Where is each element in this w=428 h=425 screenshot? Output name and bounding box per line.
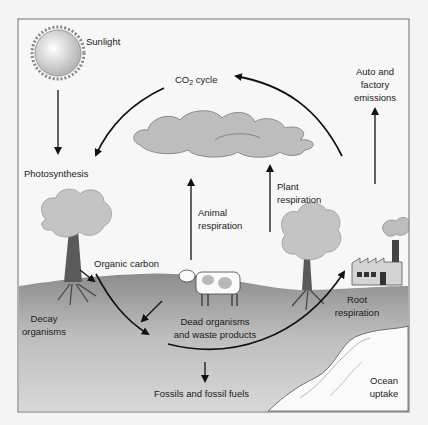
label-co2-cycle: CO2 cycle bbox=[175, 74, 217, 86]
label-plant-line2: respiration bbox=[277, 194, 321, 205]
carbon-cycle-diagram: Sunlight CO2 cycle Auto and factory emis… bbox=[0, 0, 428, 425]
label-decay-line2: organisms bbox=[22, 326, 66, 337]
label-animal-line2: respiration bbox=[198, 220, 242, 231]
label-animal-line1: Animal bbox=[198, 207, 227, 218]
label-auto-line2: factory bbox=[361, 79, 390, 90]
label-root-line1: Root bbox=[347, 294, 367, 305]
label-ocean-line1: Ocean bbox=[370, 375, 398, 386]
label-decay-line1: Decay bbox=[31, 313, 58, 324]
label-sunlight: Sunlight bbox=[86, 36, 121, 47]
label-photosynthesis: Photosynthesis bbox=[24, 168, 89, 179]
label-plant-line1: Plant bbox=[277, 181, 299, 192]
label-dead-line1: Dead organisms bbox=[180, 316, 249, 327]
label-ocean-line2: uptake bbox=[370, 388, 399, 399]
label-dead-line2: and waste products bbox=[174, 329, 257, 340]
label-fossils: Fossils and fossil fuels bbox=[154, 388, 249, 399]
label-organic-carbon: Organic carbon bbox=[94, 258, 159, 269]
label-auto-line1: Auto and bbox=[356, 66, 394, 77]
label-root-line2: respiration bbox=[335, 307, 379, 318]
label-auto-line3: emissions bbox=[354, 92, 396, 103]
